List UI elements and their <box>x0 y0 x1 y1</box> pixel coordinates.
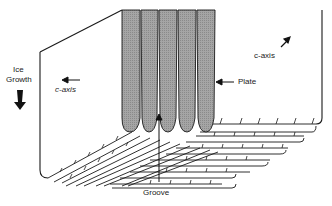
ice-crystal-diagram <box>0 0 332 206</box>
plate-label: Plate <box>238 78 256 86</box>
plates <box>122 10 215 132</box>
groove-label: Groove <box>143 189 169 197</box>
c-axis-left-arrow-icon <box>62 77 80 83</box>
c-axis-right-label: c-axis <box>254 52 275 60</box>
plate-2 <box>141 10 158 132</box>
ice-growth-arrow-icon <box>14 90 26 110</box>
plate-1 <box>122 10 140 132</box>
plate-3 <box>159 10 177 132</box>
c-axis-left-label: c-axis <box>55 86 76 94</box>
right-crystal-outline <box>316 10 322 124</box>
c-axis-right-arrow-icon <box>281 37 290 47</box>
plate-5 <box>197 10 215 132</box>
plate-4 <box>178 10 196 132</box>
ice-growth-label-line2: Growth <box>6 76 32 84</box>
left-crystal-outline <box>40 10 122 178</box>
ice-growth-label-line1: Ice <box>13 66 24 74</box>
plate-arrow-icon <box>216 79 234 85</box>
